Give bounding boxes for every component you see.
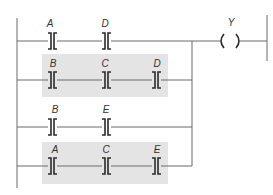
contact-label: D (101, 18, 108, 29)
contact-rung3-b: B (48, 104, 59, 135)
contact-label: C (101, 58, 109, 69)
contact-rung1-d: D (101, 18, 111, 49)
contact-label: D (153, 58, 160, 69)
contact-rung3-e: E (102, 104, 111, 135)
contact-label: C (102, 144, 110, 155)
contact-label: B (52, 104, 59, 115)
ladder-diagram: A D Y B C D B E A (0, 0, 273, 195)
contact-label: A (51, 144, 59, 155)
contact-label: E (103, 104, 110, 115)
contact-label: E (154, 144, 161, 155)
output-coil-y: Y (221, 17, 239, 48)
coil-label: Y (228, 17, 236, 28)
contact-rung1-a: A (46, 18, 57, 49)
contact-label: B (50, 58, 57, 69)
contact-label: A (46, 18, 54, 29)
